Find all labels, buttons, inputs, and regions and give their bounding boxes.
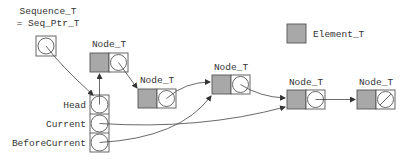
node-2-label: Node_T [140,75,175,86]
node-5 [357,90,395,109]
edge-current-to-node-4 [100,107,286,125]
legend-label: Element_T [313,29,365,40]
sequence-alias-label: = Seq_Ptr_T [17,18,80,29]
node-4-label: Node_T [289,77,324,88]
node-3 [212,75,250,94]
node-1 [90,53,128,72]
node-5-label: Node_T [359,77,394,88]
legend: Element_T [287,24,365,43]
sequence-type-label: Sequence_T [19,6,76,17]
node-2 [138,89,176,108]
before-current-label: BeforeCurrent [12,138,86,149]
node-3-label: Node_T [214,62,249,73]
head-label: Head [63,100,86,111]
legend-swatch [287,24,306,43]
linked-list-diagram: Sequence_T = Seq_Ptr_T Element_T Head Cu… [0,0,410,163]
node-1-label: Node_T [92,39,127,50]
current-label: Current [46,119,86,130]
